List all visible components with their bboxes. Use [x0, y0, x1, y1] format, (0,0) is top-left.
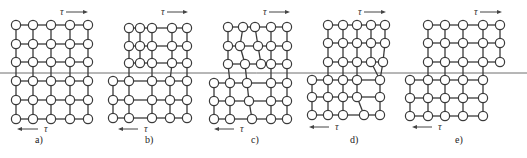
arrowhead-right-icon	[285, 10, 290, 14]
dislocation-slip-diagram: ττa)ττb)ττc)ττd)ττe)	[0, 0, 527, 158]
atom-circle	[182, 95, 191, 104]
atom-circle	[266, 41, 275, 50]
atom-circle	[147, 76, 156, 85]
atom-circle	[46, 114, 55, 123]
atom-circle	[240, 59, 249, 68]
atom-circle	[282, 59, 291, 68]
atom-circle	[495, 57, 504, 66]
atom-circle	[124, 58, 133, 67]
atom-circle	[83, 39, 92, 48]
atom-circle	[83, 95, 92, 104]
atom-circle	[167, 41, 176, 50]
atom-circle	[11, 20, 20, 29]
atom-circle	[108, 95, 117, 104]
atom-circle	[167, 58, 176, 67]
arrowhead-right-icon	[497, 10, 502, 14]
atom-circle	[225, 78, 234, 87]
atoms	[307, 20, 389, 119]
atom-circle	[238, 22, 247, 31]
atom-circle	[282, 96, 291, 105]
atom-circle	[225, 114, 234, 123]
atoms	[11, 20, 92, 123]
atom-circle	[323, 92, 332, 101]
atom-circle	[338, 92, 347, 101]
atom-circle	[352, 57, 361, 66]
atom-circle	[124, 41, 133, 50]
atom-circle	[28, 114, 37, 123]
atom-circle	[266, 78, 275, 87]
atom-circle	[83, 20, 92, 29]
shear-stress-label-bottom: τ	[144, 123, 148, 134]
atom-circle	[440, 75, 449, 84]
atoms	[405, 20, 504, 120]
atom-circle	[223, 59, 232, 68]
atom-circle	[338, 57, 347, 66]
atom-circle	[147, 113, 156, 122]
atom-circle	[182, 41, 191, 50]
atom-circle	[167, 23, 176, 32]
atom-circle	[147, 23, 156, 32]
atom-circle	[11, 95, 20, 104]
atom-circle	[338, 110, 347, 119]
atom-circle	[65, 95, 74, 104]
atom-circle	[223, 22, 232, 31]
arrowhead-left-icon	[214, 127, 219, 131]
atom-circle	[266, 96, 275, 105]
atom-circle	[65, 114, 74, 123]
atom-circle	[46, 20, 55, 29]
atom-circle	[182, 76, 191, 85]
atom-circle	[247, 114, 256, 123]
atom-circle	[352, 20, 361, 29]
atom-circle	[165, 95, 174, 104]
atom-circle	[375, 92, 384, 101]
atom-circle	[458, 75, 467, 84]
atom-circle	[478, 93, 487, 102]
atom-circle	[11, 114, 20, 123]
atom-circle	[423, 57, 432, 66]
atom-circle	[266, 114, 275, 123]
bonds	[410, 25, 500, 116]
atom-circle	[182, 113, 191, 122]
atom-circle	[323, 57, 332, 66]
arrowhead-left-icon	[17, 127, 22, 131]
bonds	[312, 25, 385, 115]
atom-circle	[256, 59, 265, 68]
atom-circle	[165, 113, 174, 122]
arrowhead-left-icon	[309, 125, 314, 129]
arrowhead-left-icon	[118, 127, 123, 131]
atom-circle	[423, 20, 432, 29]
atom-circle	[307, 75, 316, 84]
atom-circle	[124, 23, 133, 32]
atom-circle	[323, 110, 332, 119]
shear-stress-label-top: τ	[263, 6, 267, 17]
atom-circle	[28, 57, 37, 66]
atom-circle	[11, 57, 20, 66]
atom-circle	[83, 114, 92, 123]
atom-circle	[135, 23, 144, 32]
atom-circle	[478, 111, 487, 120]
atom-circle	[46, 95, 55, 104]
atom-circle	[338, 75, 347, 84]
atom-circle	[135, 41, 144, 50]
panel-d: ττd)	[307, 6, 389, 146]
atom-circle	[46, 76, 55, 85]
panel-label: a)	[35, 134, 43, 146]
atom-circle	[135, 58, 144, 67]
atom-circle	[28, 20, 37, 29]
shear-stress-label-top: τ	[358, 6, 362, 17]
atom-circle	[28, 39, 37, 48]
panel-label: c)	[251, 134, 259, 146]
atom-circle	[366, 57, 375, 66]
atom-circle	[380, 20, 389, 29]
atom-circle	[359, 110, 368, 119]
atom-circle	[147, 58, 156, 67]
atom-circle	[65, 39, 74, 48]
panel-label: e)	[455, 134, 463, 146]
atom-circle	[458, 38, 467, 47]
atom-circle	[266, 22, 275, 31]
shear-stress-label-top: τ	[474, 6, 478, 17]
atom-circle	[165, 76, 174, 85]
atom-circle	[423, 75, 432, 84]
atom-circle	[458, 111, 467, 120]
atom-circle	[423, 93, 432, 102]
